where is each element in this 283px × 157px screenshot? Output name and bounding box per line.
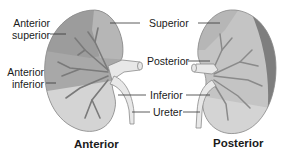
caption-anterior: Anterior — [74, 138, 119, 150]
label-line: Anterior — [0, 66, 44, 78]
label-line: inferior — [0, 78, 44, 90]
label-line: Anterior — [2, 17, 50, 29]
label-ureter: Ureter — [153, 106, 182, 118]
kidney-segments-diagram: Anterior superior Anterior inferior Supe… — [0, 0, 283, 157]
label-anterior-inferior: Anterior inferior — [0, 66, 44, 90]
label-inferior: Inferior — [150, 89, 183, 101]
caption-posterior: Posterior — [213, 137, 264, 149]
label-superior: Superior — [149, 17, 189, 29]
label-line: superior — [2, 29, 50, 41]
label-anterior-superior: Anterior superior — [2, 17, 50, 41]
label-posterior: Posterior — [147, 55, 189, 67]
